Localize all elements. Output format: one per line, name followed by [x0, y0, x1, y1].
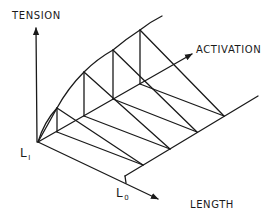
l0-subscript: 0 — [124, 194, 129, 202]
l1-label: LI — [20, 146, 31, 160]
diagonal-2 — [84, 72, 170, 149]
l0-main: L — [116, 186, 123, 200]
length-label: LENGTH — [190, 199, 234, 210]
l1-main: L — [20, 146, 27, 160]
tension-label: TENSION — [12, 10, 61, 21]
length-axis — [38, 142, 158, 199]
l0-label: L0 — [116, 186, 129, 200]
l1-subscript: I — [28, 154, 31, 162]
tension-length-activation-diagram — [0, 0, 277, 223]
diagonal-3 — [113, 50, 197, 132]
base-line-3 — [113, 99, 197, 132]
l0-tick — [125, 176, 126, 183]
tension-axis — [36, 28, 37, 142]
l0-baseline — [125, 96, 258, 176]
activation-axis — [38, 54, 192, 142]
activation-label: ACTIVATION — [196, 44, 261, 55]
base-line-2 — [84, 116, 170, 149]
diagonal-4 — [140, 30, 224, 116]
